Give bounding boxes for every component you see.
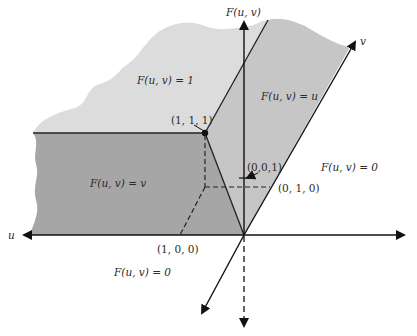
label-point-100: (1, 0, 0) xyxy=(157,243,199,255)
label-f-equals-1: F(u, v) = 1 xyxy=(136,74,194,86)
copula-diagram: F(u, v) v u F(u, v) = 1 F(u, v) = u F(u,… xyxy=(0,0,417,336)
v-axis-label: v xyxy=(360,35,366,47)
label-f-equals-v: F(u, v) = v xyxy=(89,177,146,189)
f-axis-label: F(u, v) xyxy=(225,6,261,18)
label-point-111: (1, 1, 1) xyxy=(171,114,213,126)
point-111-marker xyxy=(202,130,208,136)
label-point-001: (0,0,1) xyxy=(247,161,282,173)
label-point-010: (0, 1, 0) xyxy=(278,182,320,194)
u-axis-label: u xyxy=(8,229,15,241)
label-f-equals-u: F(u, v) = u xyxy=(260,90,318,102)
label-f-equals-0-bottom: F(u, v) = 0 xyxy=(113,266,171,278)
label-f-equals-0-right: F(u, v) = 0 xyxy=(320,161,378,173)
v-axis-down xyxy=(202,235,244,313)
